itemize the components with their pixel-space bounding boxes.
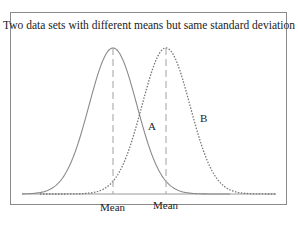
mean-label-a: Mean — [100, 201, 125, 213]
chart-plot — [0, 0, 298, 226]
mean-label-b: Mean — [153, 199, 178, 211]
curve-b — [40, 48, 276, 194]
label-b: B — [200, 112, 207, 124]
label-a: A — [148, 120, 156, 132]
curve-a — [22, 48, 230, 194]
